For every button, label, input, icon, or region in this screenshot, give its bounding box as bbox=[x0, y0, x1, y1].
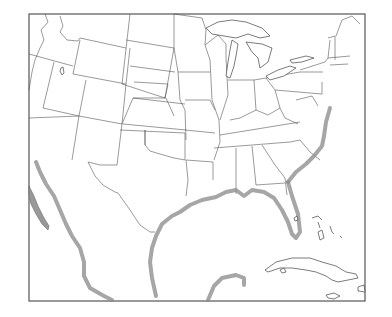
us-outline-map bbox=[0, 0, 392, 317]
